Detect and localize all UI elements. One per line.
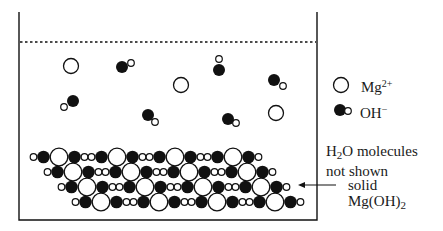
lattice-mg: [238, 163, 256, 181]
oxygen-atom: [67, 95, 79, 107]
lattice-mg: [180, 163, 198, 181]
lattice-oxygen: [212, 181, 225, 194]
oxygen-atom: [222, 113, 234, 125]
lattice-hydrogen: [44, 169, 51, 176]
lattice-mg: [50, 148, 68, 166]
lattice-oxygen: [184, 151, 197, 164]
mg-ion-legend-icon: [334, 78, 349, 93]
oxygen-atom: [142, 109, 154, 121]
solid-mg-oh2-lattice: [30, 148, 304, 211]
lattice-oxygen: [284, 196, 297, 209]
legend-mg-label: Mg2+: [361, 76, 392, 95]
lattice-hydrogen: [88, 154, 95, 161]
lattice-oxygen: [242, 151, 255, 164]
lattice-oxygen: [137, 196, 150, 209]
lattice-hydrogen: [297, 199, 304, 206]
solid-label: solid Mg(OH)2: [348, 177, 406, 213]
lattice-hydrogen: [239, 199, 246, 206]
mg-ion: [174, 78, 189, 93]
lattice-mg: [150, 193, 168, 211]
lattice-hydrogen: [181, 199, 188, 206]
lattice-oxygen: [253, 196, 266, 209]
lattice-hydrogen: [225, 184, 232, 191]
lattice-hydrogen: [204, 154, 211, 161]
lattice-oxygen: [110, 196, 123, 209]
lattice-hydrogen: [255, 154, 262, 161]
lattice-mg: [194, 178, 212, 196]
lattice-hydrogen: [160, 169, 167, 176]
note-h: H: [326, 143, 337, 159]
lattice-mg: [252, 178, 270, 196]
lattice-mg: [108, 148, 126, 166]
lattice-oxygen: [140, 166, 153, 179]
solid-label-line1: solid: [348, 177, 406, 193]
lattice-mg: [122, 163, 140, 181]
lattice-oxygen: [226, 196, 239, 209]
oh-hydrogen-legend-icon: [345, 108, 352, 115]
lattice-oxygen: [51, 166, 64, 179]
lattice-oxygen: [239, 181, 252, 194]
lattice-hydrogen: [130, 199, 137, 206]
lattice-hydrogen: [283, 184, 290, 191]
oh-charge: −: [382, 104, 388, 115]
lattice-hydrogen: [30, 154, 37, 161]
water-note: H2O molecules not shown: [326, 143, 418, 179]
legend-oh-label: OH−: [360, 102, 387, 121]
oxygen-atom: [213, 64, 225, 76]
lattice-oxygen: [109, 166, 122, 179]
lattice-hydrogen: [167, 184, 174, 191]
lattice-mg: [136, 178, 154, 196]
lattice-oxygen: [79, 196, 92, 209]
lattice-hydrogen: [139, 154, 146, 161]
lattice-oxygen: [256, 166, 269, 179]
lattice-oxygen: [154, 181, 167, 194]
oh-text: OH: [360, 105, 382, 121]
mg-ion: [64, 59, 79, 74]
lattice-oxygen: [153, 151, 166, 164]
lattice-oxygen: [195, 196, 208, 209]
mg-charge: 2+: [382, 78, 393, 89]
hydrogen-atom: [216, 56, 223, 63]
lattice-hydrogen: [72, 199, 79, 206]
lattice-oxygen: [95, 151, 108, 164]
lattice-oxygen: [65, 181, 78, 194]
hydrogen-atom: [61, 104, 68, 111]
note-rest: O molecules: [342, 143, 417, 159]
lattice-hydrogen: [211, 169, 218, 176]
oh-oxygen-legend-icon: [334, 104, 346, 116]
hydrogen-atom: [128, 60, 135, 67]
solid-formula: Mg(OH): [348, 193, 401, 209]
lattice-mg: [266, 193, 284, 211]
lattice-oxygen: [126, 151, 139, 164]
hydrogen-atom: [152, 119, 159, 126]
lattice-oxygen: [123, 181, 136, 194]
lattice-mg: [224, 148, 242, 166]
lattice-oxygen: [181, 181, 194, 194]
lattice-hydrogen: [116, 184, 123, 191]
lattice-hydrogen: [174, 184, 181, 191]
lattice-oxygen: [225, 166, 238, 179]
mg-ion: [269, 106, 284, 121]
lattice-hydrogen: [81, 154, 88, 161]
solid-formula-sub: 2: [401, 199, 407, 211]
lattice-mg: [92, 193, 110, 211]
dissolved-ions: [61, 56, 287, 127]
lattice-oxygen: [37, 151, 50, 164]
lattice-hydrogen: [146, 154, 153, 161]
legend-icons: [334, 78, 352, 117]
lattice-hydrogen: [58, 184, 65, 191]
lattice-oxygen: [167, 166, 180, 179]
oxygen-atom: [116, 61, 128, 73]
lattice-oxygen: [96, 181, 109, 194]
lattice-mg: [166, 148, 184, 166]
mg-text: Mg: [361, 79, 382, 95]
lattice-oxygen: [211, 151, 224, 164]
lattice-oxygen: [68, 151, 81, 164]
lattice-hydrogen: [109, 184, 116, 191]
lattice-hydrogen: [102, 169, 109, 176]
lattice-hydrogen: [246, 199, 253, 206]
lattice-hydrogen: [153, 169, 160, 176]
lattice-oxygen: [168, 196, 181, 209]
lattice-hydrogen: [188, 199, 195, 206]
lattice-hydrogen: [269, 169, 276, 176]
